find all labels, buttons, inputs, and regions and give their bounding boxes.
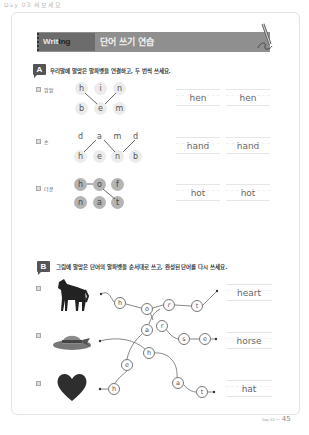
path-letter-circle: s bbox=[178, 333, 190, 345]
path-letter-circle: o bbox=[141, 303, 153, 315]
answer-box[interactable]: heart bbox=[226, 284, 272, 301]
path-letter-circle: e bbox=[121, 359, 133, 371]
path-letter-circle: e bbox=[199, 333, 211, 345]
page-number-value: 45 bbox=[282, 415, 291, 423]
page-number: Day 03 ──45 bbox=[262, 415, 291, 423]
path-letter-circle: t bbox=[196, 386, 208, 398]
word-path-lines bbox=[0, 0, 309, 435]
path-letter-circle: h bbox=[143, 347, 155, 359]
page-footer-label: Day 03 ── bbox=[262, 418, 280, 422]
path-letter-circle: t bbox=[191, 300, 203, 312]
path-letter-circle: h bbox=[114, 297, 126, 309]
path-letter-circle: a bbox=[172, 377, 184, 389]
path-letter-circle: a bbox=[141, 324, 153, 336]
path-letter-circle: r bbox=[156, 320, 168, 332]
answer-box[interactable]: hat bbox=[226, 380, 272, 397]
answer-box[interactable]: horse bbox=[226, 332, 272, 349]
path-letter-circle: h bbox=[108, 383, 120, 395]
path-letter-circle: r bbox=[163, 299, 175, 311]
